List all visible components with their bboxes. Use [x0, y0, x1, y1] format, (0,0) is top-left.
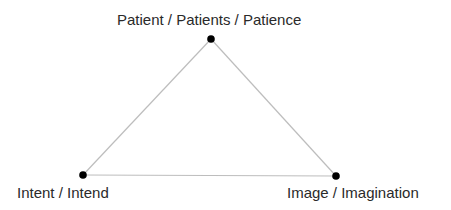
node-left-dot [79, 171, 87, 179]
edge-top-left [83, 39, 211, 175]
node-right-label: Image / Imagination [287, 185, 419, 200]
triangle-diagram [0, 0, 451, 210]
edge-left-right [83, 175, 336, 176]
node-right-dot [332, 172, 340, 180]
edge-right-top [211, 39, 336, 176]
node-top-dot [207, 35, 215, 43]
node-left-label: Intent / Intend [17, 185, 109, 200]
node-top-label: Patient / Patients / Patience [117, 12, 301, 27]
